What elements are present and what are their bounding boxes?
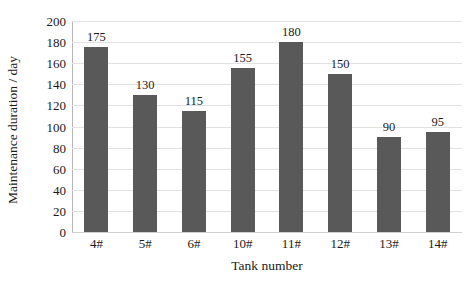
bar-value-label: 175 (87, 31, 106, 44)
bars-layer: 1751301151551801509095 (72, 21, 462, 232)
y-axis-tick-labels: 020406080100120140160180200 (24, 0, 66, 283)
bar-group: 180 (267, 21, 316, 232)
x-axis-tick-labels: 4#5#6#10#11#12#13#14# (72, 236, 462, 254)
x-tick-label-5: 5# (139, 236, 152, 252)
y-tick-label-60: 60 (24, 162, 66, 175)
y-tick-label-160: 160 (24, 57, 66, 70)
bar-group: 115 (170, 21, 219, 232)
bar-value-label: 150 (331, 58, 350, 71)
y-tick-label-180: 180 (24, 36, 66, 49)
bar-11 (279, 42, 303, 232)
x-tick-label-13: 13# (379, 236, 399, 252)
x-axis-title: Tank number (72, 258, 462, 274)
bar-13 (377, 137, 401, 232)
bar-group: 130 (121, 21, 170, 232)
y-tick-label-80: 80 (24, 141, 66, 154)
y-tick-label-120: 120 (24, 99, 66, 112)
bar-14 (426, 132, 450, 232)
bar-value-label: 155 (233, 52, 252, 65)
x-tick-label-6: 6# (187, 236, 200, 252)
bar-group: 150 (316, 21, 365, 232)
y-tick-label-20: 20 (24, 204, 66, 217)
bar-group: 175 (72, 21, 121, 232)
bar-4 (84, 47, 108, 232)
x-tick-label-12: 12# (330, 236, 350, 252)
bar-group: 90 (365, 21, 414, 232)
y-tick-label-100: 100 (24, 120, 66, 133)
bar-value-label: 115 (185, 95, 203, 108)
plot-area: 1751301151551801509095 (72, 21, 462, 232)
bar-5 (133, 95, 157, 232)
bar-value-label: 95 (431, 116, 444, 129)
bar-chart-figure: Maintenance duration / day 0204060801001… (0, 0, 475, 283)
bar-group: 95 (413, 21, 462, 232)
bar-12 (328, 74, 352, 232)
y-tick-label-200: 200 (24, 15, 66, 28)
y-tick-label-140: 140 (24, 78, 66, 91)
x-tick-label-11: 11# (282, 236, 301, 252)
bar-value-label: 180 (282, 26, 301, 39)
bar-value-label: 130 (136, 79, 155, 92)
bar-value-label: 90 (383, 121, 396, 134)
gridline-0 (72, 232, 462, 233)
bar-group: 155 (218, 21, 267, 232)
x-tick-label-10: 10# (233, 236, 253, 252)
x-tick-label-4: 4# (90, 236, 103, 252)
y-tick-label-0: 0 (24, 226, 66, 239)
x-tick-label-14: 14# (428, 236, 448, 252)
y-axis-title: Maintenance duration / day (2, 10, 24, 250)
bar-6 (182, 111, 206, 232)
y-tick-label-40: 40 (24, 183, 66, 196)
bar-10 (231, 68, 255, 232)
